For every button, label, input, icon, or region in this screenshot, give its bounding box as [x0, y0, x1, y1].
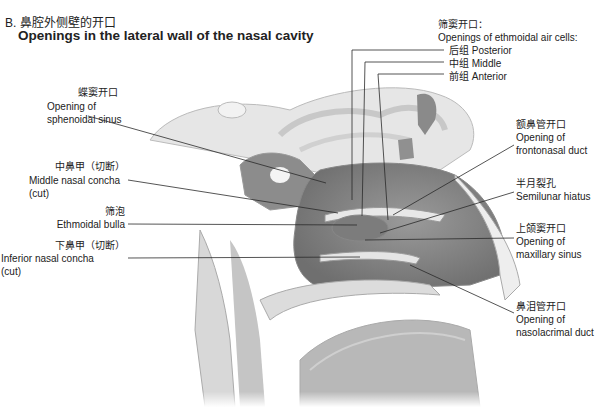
- label-ethmoidal-bulla: 筛泡 Ethmoidal bulla: [10, 205, 125, 231]
- label-middle-group: 中组 Middle: [449, 57, 512, 70]
- label-posterior-group: 后组 Posterior: [449, 44, 512, 57]
- label-sphenoidal-sinus-opening-en: Opening of sphenoidal sinus: [47, 100, 122, 126]
- label-ethmoidal-air-cells: 筛窦开口： Openings of ethmoidal air cells:: [438, 18, 578, 44]
- label-sphenoidal-sinus-opening: 蝶窦开口: [30, 86, 118, 99]
- label-anterior-group: 前组 Anterior: [449, 70, 512, 83]
- label-frontonasal-duct: 额鼻管开口 Opening of frontonasal duct: [516, 118, 587, 157]
- label-maxillary-sinus: 上颌窦开口 Opening of maxillary sinus: [516, 222, 582, 261]
- label-inferior-nasal-concha-en: Inferior nasal concha (cut): [1, 252, 94, 278]
- label-inferior-nasal-concha-zh: 下鼻甲（切断）: [10, 239, 125, 252]
- nasal-cavity-illustration: [0, 0, 605, 407]
- label-nasolacrimal-duct: 鼻泪管开口 Opening of nasolacrimal duct: [516, 300, 594, 339]
- label-middle-nasal-concha-zh: 中鼻甲（切断）: [10, 160, 125, 173]
- label-middle-nasal-concha-en: Middle nasal concha (cut): [29, 174, 120, 200]
- label-ethmoidal-groups: 后组 Posterior 中组 Middle 前组 Anterior: [449, 44, 512, 83]
- label-semilunar-hiatus: 半月裂孔 Semilunar hiatus: [516, 177, 590, 203]
- figure-title-en: Openings in the lateral wall of the nasa…: [18, 28, 314, 43]
- label-zh: 蝶窦开口: [30, 86, 118, 99]
